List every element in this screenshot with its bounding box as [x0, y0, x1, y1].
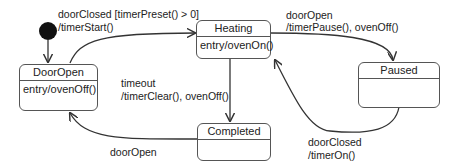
label-reopen-event: doorOpen: [110, 146, 157, 158]
state-name: Heating: [197, 21, 270, 37]
state-completed: Completed: [197, 123, 271, 161]
initial-state-dot: [39, 22, 57, 40]
state-entry-action: [359, 79, 439, 81]
label-pause-action: /timerPause(), ovenOff(): [286, 21, 398, 33]
state-entry-action: entry/ovenOn(): [197, 37, 270, 54]
label-timeout-event: timeout: [121, 77, 155, 89]
arrow-completed-to-dooropen: [70, 113, 197, 139]
state-entry-action: [198, 140, 270, 142]
arrow-heating-to-paused: [270, 33, 393, 60]
state-name: Completed: [198, 124, 270, 140]
state-entry-action: entry/ovenOff(): [20, 81, 97, 98]
label-resume-event: doorClosed: [308, 136, 362, 148]
label-start-heating-event: doorClosed [timerPreset() > 0]: [58, 8, 199, 20]
label-start-heating-action: /timerStart(): [58, 21, 113, 33]
state-paused: Paused: [358, 62, 440, 108]
state-heating: Heating entry/ovenOn(): [196, 20, 271, 59]
label-resume-action: /timerOn(): [308, 149, 355, 161]
label-pause-event: doorOpen: [286, 9, 333, 21]
label-timeout-action: /timerClear(), ovenOff(): [121, 90, 229, 102]
state-dooropen: DoorOpen entry/ovenOff(): [19, 64, 98, 111]
arrow-dooropen-to-heating: [70, 33, 195, 63]
state-name: Paused: [359, 63, 439, 79]
state-name: DoorOpen: [20, 65, 97, 81]
